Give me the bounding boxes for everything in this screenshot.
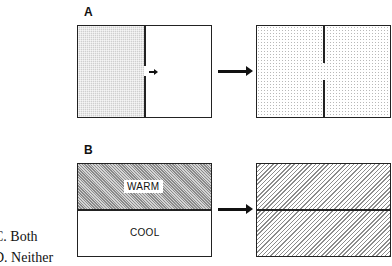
- panel-a-after-box: [256, 25, 391, 118]
- answer-choice-d[interactable]: D. Neither: [0, 250, 53, 266]
- panel-a-before-box: [77, 25, 212, 118]
- answer-choice-c[interactable]: C. Both: [0, 229, 38, 245]
- panel-a-divider-bottom: [144, 76, 146, 117]
- panel-b-divider: [78, 209, 211, 211]
- panel-b-after-divider: [257, 209, 390, 211]
- transition-arrow-a-icon: [218, 70, 248, 73]
- panel-b-after-box: [256, 163, 391, 257]
- panel-a-after-divider-bottom: [323, 80, 325, 117]
- panel-b-before-box: WARM COOL: [77, 163, 212, 257]
- warm-label: WARM: [124, 180, 163, 193]
- panel-a-divider-top: [144, 26, 146, 66]
- transition-arrow-b-icon: [218, 208, 248, 211]
- small-arrow-icon: [149, 71, 155, 73]
- cool-label: COOL: [130, 227, 160, 238]
- panel-a-label: A: [84, 5, 93, 19]
- panel-a-shaded-region: [78, 26, 144, 117]
- panel-a-after-divider-top: [323, 26, 325, 63]
- panel-b-label: B: [84, 143, 93, 157]
